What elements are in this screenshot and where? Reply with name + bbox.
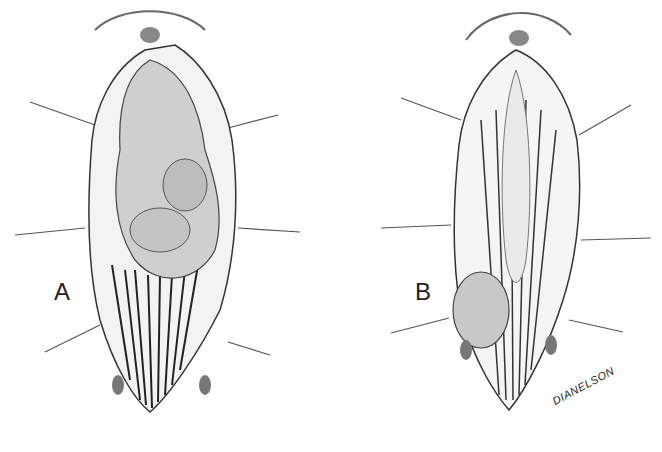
- panel-label-a: A: [54, 278, 70, 306]
- panel-a: A: [0, 0, 331, 452]
- illustration-b: [331, 0, 662, 452]
- panel-label-b: B: [415, 278, 431, 306]
- panel-b: B DIANELSON: [331, 0, 662, 452]
- illustration-a: [0, 0, 331, 452]
